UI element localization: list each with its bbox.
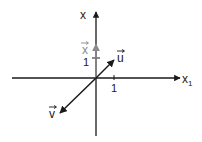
vertical-axis: 1 x — [80, 8, 100, 136]
horizontal-tick-label: 1 — [111, 82, 117, 94]
vector-x-label: x — [82, 43, 88, 57]
vector-v: v — [49, 78, 96, 121]
vector-u: u — [96, 50, 125, 79]
horizontal-axis: 1 x1 — [12, 72, 193, 94]
vector-u-label: u — [117, 51, 124, 65]
vector-v-label: v — [49, 107, 55, 121]
vertical-tick-label: 1 — [83, 56, 89, 68]
vertical-axis-label: x — [80, 8, 86, 22]
horizontal-axis-label: x1 — [182, 72, 193, 88]
vector-diagram: 1 x1 1 x x u — [0, 0, 202, 142]
